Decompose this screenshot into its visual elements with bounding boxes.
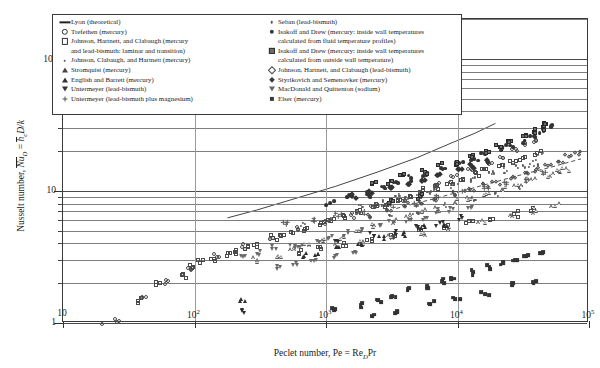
data-point [549,163,554,168]
x-axis-tick-label: 105 [582,308,595,320]
data-point [456,197,460,201]
data-point [316,245,320,249]
legend-marker-fdtri-icon [58,85,71,94]
data-point [523,155,527,159]
data-point [305,226,309,230]
legend-item[interactable]: Johnson, Clabaugh, and Hartnett (mercury… [58,56,263,65]
data-point [275,255,279,259]
legend-marker-hsq-icon [265,47,278,56]
legend-item[interactable]: Stromquist (mercury) [58,66,263,75]
data-point [424,233,428,237]
legend-item-label: Seban (lead-bismuth) [278,18,461,27]
data-point [209,257,213,261]
data-point [387,201,391,205]
data-point [501,261,505,265]
y-axis-title: Nusselt number, NuD = hcD/k [16,26,28,326]
data-point [434,224,438,228]
data-point [359,242,363,246]
x-axis-tick [589,321,590,328]
data-point [494,192,496,194]
data-point [532,140,536,144]
y-axis-tick [58,243,63,244]
legend-item[interactable]: Trefethen (mercury) [58,28,263,37]
data-point [532,206,536,210]
data-point [279,234,283,238]
legend-item-label: Lyon (theoretical) [71,18,263,27]
legend-item-label: Styrikovich and Semenovker (mercury) [278,76,461,85]
data-point [466,167,470,171]
data-point [513,183,517,187]
data-point [332,199,336,203]
data-point [213,259,217,263]
data-point [403,205,408,210]
empirical-dashed-curve [396,159,581,209]
data-point [372,234,376,238]
legend-item[interactable]: MacDonald and Quittenton (sodium) [265,85,461,94]
data-point [455,162,459,166]
data-point [425,172,429,176]
data-point [420,192,424,196]
data-point [540,251,544,255]
legend-item-label: English and Barrett (mercury) [71,76,263,85]
data-point [434,211,438,215]
data-point [558,201,562,205]
data-point [484,151,488,155]
data-point [523,177,527,181]
data-point [508,213,512,217]
legend-item-label: Stromquist (mercury) [71,66,263,75]
legend-item[interactable]: Styrikovich and Semenovker (mercury) [265,76,461,85]
data-point [409,218,413,222]
data-point [535,158,537,160]
x-axis-tick [326,321,327,328]
legend-item-label: Isakoff and Drew (mercury: inside wall t… [278,47,461,56]
data-point [327,236,331,240]
data-point [441,277,445,281]
data-point [243,299,247,303]
data-point [529,163,531,165]
data-point [540,169,544,173]
legend-item[interactable]: English and Barrett (mercury) [58,76,263,85]
data-point [391,215,393,217]
data-point [470,180,472,182]
y-axis-tick-label: 102 [0,52,56,64]
legend-item[interactable]: Untermeyer (lead-bismuth plus magnesium) [58,95,263,104]
data-point [550,123,554,127]
data-point [403,234,407,238]
legend-item-label: Johnson, Clabaugh, and Hartnett (mercury… [71,56,263,65]
data-point [552,171,556,175]
legend-item[interactable]: Untermeyer (lead-bismuth) [58,85,263,94]
data-point [309,259,313,263]
data-point [516,209,520,213]
data-point [442,224,446,228]
legend-item[interactable]: Isakoff and Drew (mercury: inside wall t… [265,28,461,37]
data-point [534,176,538,180]
legend-item[interactable]: Lyon (theoretical) [58,18,263,27]
legend-item-label: Trefethen (mercury) [71,28,263,37]
data-point [449,277,453,281]
data-point [350,211,354,215]
data-point [532,170,537,175]
data-point [497,182,502,187]
legend-item[interactable]: Johnson, Hartnett, and Clabaugh (lead-bi… [265,66,461,75]
legend-item-label: Isakoff and Drew (mercury: inside wall t… [278,28,461,37]
data-point [461,178,465,182]
legend-item[interactable]: Johnson, Hartnett, and Clabaugh (mercury [58,37,263,46]
data-point [196,258,200,262]
data-point [336,240,340,244]
data-point [234,252,238,256]
data-point [561,160,566,165]
data-point [422,223,426,227]
data-point [474,199,476,201]
legend-marker-osq-icon [58,37,71,46]
data-point [426,287,430,291]
legend-item[interactable]: Isakoff and Drew (mercury: inside wall t… [265,47,461,56]
data-point [279,255,283,259]
legend-item[interactable]: Elser (mercury) [265,95,461,104]
data-point [421,186,425,190]
data-point [394,233,398,237]
data-point [533,135,537,139]
data-point [455,173,459,177]
data-point [270,244,274,248]
data-point [240,308,244,312]
legend-item[interactable]: Seban (lead-bismuth) [265,18,461,27]
